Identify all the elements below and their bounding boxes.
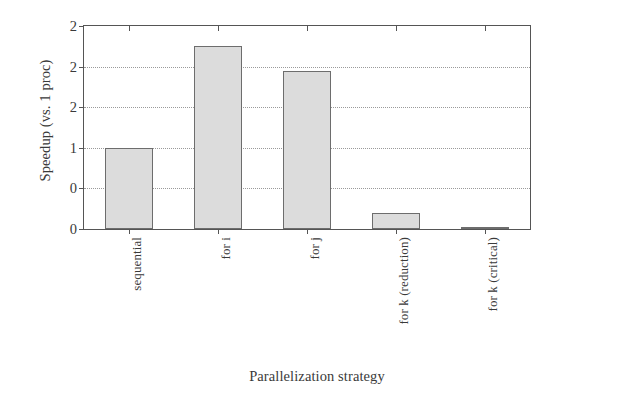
x-axis-tick: [218, 229, 219, 234]
y-axis-tick-label: 2: [70, 59, 77, 74]
y-axis-tick: [79, 67, 84, 68]
y-axis-tick: [79, 26, 84, 27]
gridline: [84, 67, 530, 68]
bar: [372, 213, 420, 229]
x-axis-category-label: for k (reduction): [396, 237, 412, 325]
x-axis-tick-top: [485, 26, 486, 31]
y-axis-tick: [79, 148, 84, 149]
x-axis-tick-top: [218, 26, 219, 31]
bar: [283, 71, 331, 229]
y-axis-title: Speedup (vs. 1 proc): [37, 21, 54, 221]
x-axis-tick: [129, 229, 130, 234]
x-axis-category-label: for k (critical): [485, 237, 501, 312]
y-axis-tick: [79, 188, 84, 189]
x-axis-category-label: for i: [218, 237, 234, 260]
y-axis-tick-label: 0: [70, 222, 77, 237]
x-axis-category-label: sequential: [129, 237, 145, 291]
y-axis-tick-label: 0: [70, 181, 77, 196]
x-axis-title: Parallelization strategy: [0, 368, 634, 385]
x-axis-tick: [485, 229, 486, 234]
x-axis-tick-top: [129, 26, 130, 31]
x-axis-tick-top: [307, 26, 308, 31]
plot-area: 001222sequentialfor ifor jfor k (reducti…: [83, 25, 531, 230]
y-axis-tick: [79, 229, 84, 230]
bar: [194, 46, 242, 229]
x-axis-tick-top: [396, 26, 397, 31]
bar-chart-figure: Speedup (vs. 1 proc) 001222sequentialfor…: [0, 0, 634, 401]
y-axis-tick-label: 1: [70, 141, 77, 156]
y-axis-tick: [79, 107, 84, 108]
bar: [105, 148, 153, 229]
x-axis-tick: [396, 229, 397, 234]
y-axis-tick-label: 2: [70, 100, 77, 115]
x-axis-tick: [307, 229, 308, 234]
x-axis-category-label: for j: [307, 237, 323, 260]
y-axis-tick-label: 2: [70, 19, 77, 34]
